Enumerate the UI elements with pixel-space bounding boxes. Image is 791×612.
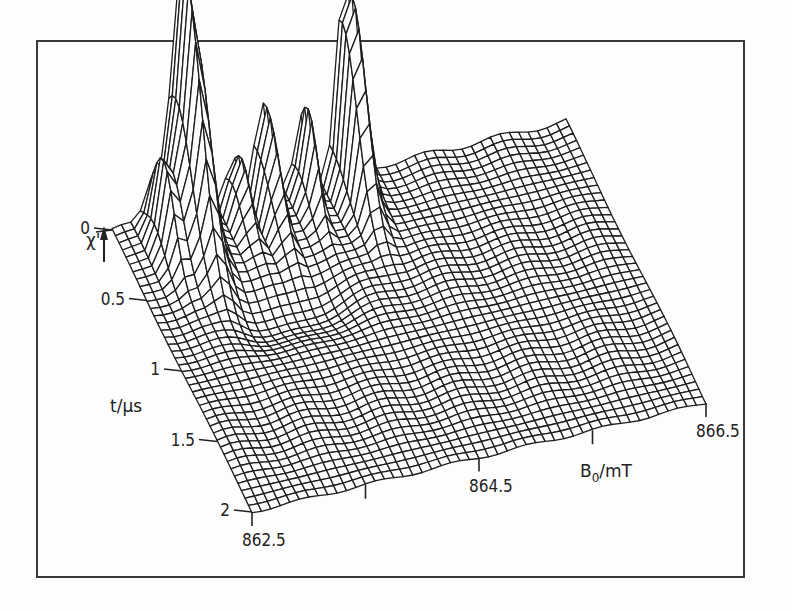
t-axis-tick-label: 1.5 <box>171 430 195 450</box>
t-axis-tick-label: 2 <box>220 500 230 520</box>
wireframe-surface <box>112 0 706 513</box>
t-axis-tick-label: 0.5 <box>101 289 125 309</box>
figure-page: 00.511.52862.5864.5866.5 χ'' t/µs B0/mT <box>0 0 791 612</box>
b0-axis-tick-label: 862.5 <box>242 530 286 550</box>
z-axis-label: χ'' <box>86 226 108 262</box>
b0-axis-tick-label: 864.5 <box>469 476 513 496</box>
t-axis-title: t/µs <box>110 396 142 416</box>
surface-plot: 00.511.52862.5864.5866.5 χ'' t/µs B0/mT <box>0 0 791 612</box>
t-axis-tick <box>164 369 182 371</box>
b0-axis-tick-label: 866.5 <box>696 421 740 441</box>
t-axis-tick <box>199 440 217 442</box>
t-axis-tick <box>234 510 252 512</box>
b0-axis-title: B0/mT <box>580 461 633 485</box>
t-axis-tick-label: 1 <box>150 359 160 379</box>
t-axis-tick <box>129 299 147 301</box>
